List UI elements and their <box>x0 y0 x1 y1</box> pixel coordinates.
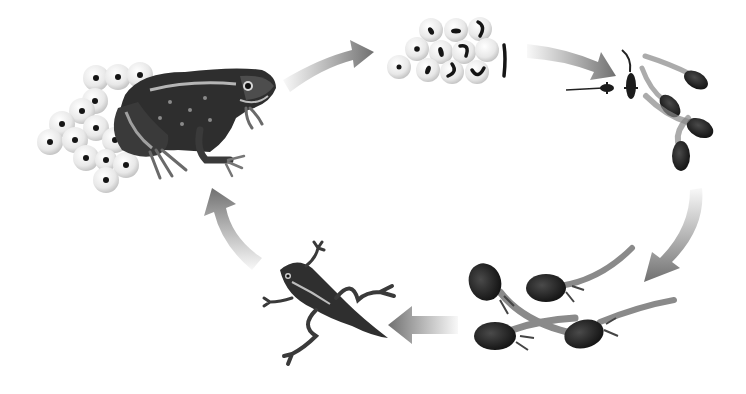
frogspawn-icon <box>387 17 505 84</box>
arrow-legged-to-froglet <box>388 306 458 344</box>
legged-tadpole-icon <box>561 300 674 353</box>
stage-legged-tadpoles <box>463 248 674 353</box>
legged-tadpole-icon <box>474 318 575 350</box>
stage-adult-frog <box>37 62 276 193</box>
hatchling-tadpole-icon <box>566 82 614 94</box>
arrow-tadpoles-to-legged <box>644 188 702 282</box>
stage-froglet <box>264 242 394 364</box>
tadpole-icon <box>646 96 716 142</box>
arrow-spawn-to-tadpoles <box>527 44 616 80</box>
arrow-froglet-to-adult <box>204 188 262 270</box>
early-tadpole-icon <box>622 50 638 99</box>
diagram-canvas <box>0 0 746 394</box>
froglet-icon <box>264 242 394 364</box>
frog-life-cycle-diagram: cycle <box>0 0 746 394</box>
legged-tadpole-icon <box>526 248 632 302</box>
stage-frogspawn <box>387 17 505 84</box>
arrow-adult-to-spawn <box>283 40 374 92</box>
